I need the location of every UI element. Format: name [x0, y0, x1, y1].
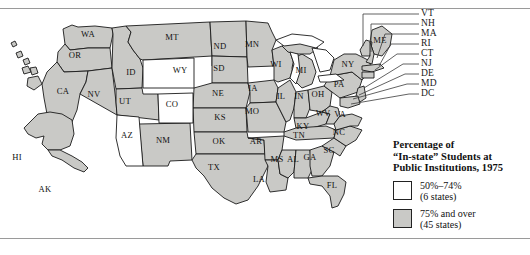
- legend-count-low: (6 states): [420, 191, 462, 202]
- state-label-AK: AK: [39, 184, 52, 194]
- state-AK-tail: [48, 150, 88, 172]
- state-HI-6: [27, 76, 42, 90]
- state-label-MN: MN: [245, 39, 260, 49]
- state-label-MS: MS: [271, 154, 284, 164]
- legend-swatch-low: [393, 181, 412, 200]
- state-label-WY: WY: [173, 65, 188, 75]
- leader-NH: [371, 24, 419, 52]
- state-label-TN: TN: [293, 130, 305, 140]
- state-AK: [24, 112, 74, 150]
- state-TN: [284, 126, 336, 140]
- legend-entry-high: 75% and over (45 states): [393, 208, 525, 230]
- state-OR: [57, 44, 112, 72]
- legend-swatch-high: [393, 209, 412, 228]
- state-HI-2: [16, 51, 23, 58]
- legend-text-low: 50%–74% (6 states): [420, 180, 462, 202]
- state-label-NV: NV: [88, 89, 101, 99]
- state-label-NC: NC: [333, 127, 345, 137]
- legend-count-high: (45 states): [420, 219, 476, 230]
- state-HI-4: [22, 66, 31, 74]
- state-label-MI: MI: [296, 65, 307, 75]
- state-label-CO: CO: [166, 99, 178, 109]
- state-AZ: [116, 115, 143, 166]
- callout-leader-lines: [345, 0, 465, 115]
- state-label-WI: WI: [270, 59, 281, 69]
- state-label-KS: KS: [214, 112, 225, 122]
- lake-huron-erie: [312, 48, 334, 72]
- state-label-OH: OH: [312, 89, 325, 99]
- state-label-AL: AL: [287, 154, 299, 164]
- legend-text-high: 75% and over (45 states): [420, 208, 476, 230]
- state-label-GA: GA: [304, 152, 317, 162]
- state-label-TX: TX: [208, 162, 220, 172]
- state-label-OR: OR: [69, 50, 81, 60]
- state-label-SD: SD: [213, 63, 224, 73]
- state-label-MT: MT: [165, 32, 179, 42]
- state-HI-5: [30, 67, 38, 75]
- state-HI-1: [11, 41, 17, 47]
- state-label-SC: SC: [324, 145, 335, 155]
- state-label-WA: WA: [81, 29, 95, 39]
- state-label-NM: NM: [156, 135, 170, 145]
- map-legend: Percentage of “In-state” Students at Pub…: [393, 139, 525, 230]
- legend-title-line-3: Public Institutions, 1975: [393, 162, 525, 174]
- leader-MD: [353, 84, 419, 99]
- state-label-AZ: AZ: [121, 130, 133, 140]
- leader-DE: [359, 74, 419, 95]
- legend-range-low: 50%–74%: [420, 180, 462, 191]
- state-label-WV: WV: [316, 108, 331, 118]
- legend-title-line-1: Percentage of: [393, 139, 525, 151]
- bottom-divider-rule: [0, 238, 530, 239]
- state-label-OK: OK: [213, 136, 226, 146]
- state-label-IN: IN: [294, 91, 304, 101]
- state-label-IL: IL: [277, 91, 286, 101]
- state-ND2: [210, 21, 247, 57]
- state-label-FL: FL: [327, 180, 337, 190]
- leader-DC: [351, 94, 419, 104]
- state-HI-3: [23, 58, 30, 65]
- legend-entry-low: 50%–74% (6 states): [393, 180, 525, 202]
- state-label-MO: MO: [245, 106, 259, 116]
- map-figure: WAORCANVIDMTWYUTAZCONMNDSDNEKSOKTXMNIAMO…: [0, 0, 530, 255]
- state-label-CA: CA: [57, 86, 70, 96]
- state-label-HI: HI: [12, 152, 21, 162]
- state-label-NE: NE: [212, 88, 224, 98]
- legend-title-line-2: “In-state” Students at: [393, 151, 525, 163]
- state-label-ND: ND: [214, 41, 227, 51]
- state-label-AR: AR: [250, 136, 262, 146]
- state-label-PA: PA: [334, 79, 345, 89]
- state-label-LA: LA: [253, 174, 265, 184]
- legend-title: Percentage of “In-state” Students at Pub…: [393, 139, 525, 174]
- state-label-IA: IA: [248, 83, 258, 93]
- state-label-ID: ID: [126, 67, 135, 77]
- state-label-UT: UT: [119, 96, 131, 106]
- legend-range-high: 75% and over: [420, 208, 476, 219]
- callout-label-DC: DC: [421, 89, 435, 99]
